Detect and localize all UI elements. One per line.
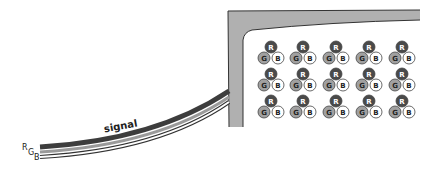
subpixel-label: R: [268, 44, 274, 52]
pixel-triad: RGB: [323, 68, 349, 91]
pixel-triad: RGB: [323, 95, 349, 118]
subpixel-label: B: [275, 82, 280, 90]
subpixel-label: G: [326, 109, 332, 117]
subpixel-label: B: [307, 82, 312, 90]
subpixel-label: R: [399, 44, 405, 52]
subpixel-label: G: [293, 109, 299, 117]
subpixel-label: R: [300, 98, 306, 106]
pixel-grid: RGBRGBRGBRGBRGBRGBRGBRGBRGBRGBRGBRGBRGBR…: [258, 41, 415, 118]
pixel-triad: RGB: [258, 68, 284, 91]
subpixel-label: B: [340, 109, 345, 117]
subpixel-label: R: [300, 71, 306, 79]
subpixel-label: R: [399, 71, 405, 79]
subpixel-label: G: [261, 109, 267, 117]
pixel-triad: RGB: [356, 41, 382, 64]
subpixel-label: G: [326, 55, 332, 63]
subpixel-label: R: [300, 44, 306, 52]
channel-label-b: B: [34, 153, 40, 162]
subpixel-label: G: [261, 55, 267, 63]
subpixel-label: R: [333, 71, 339, 79]
rgb-display-diagram: signal R G B RGBRGBRGBRGBRGBRGBRGBRGBRGB…: [0, 0, 440, 170]
subpixel-label: G: [359, 109, 365, 117]
subpixel-label: R: [268, 71, 274, 79]
subpixel-label: R: [333, 98, 339, 106]
subpixel-label: B: [340, 82, 345, 90]
subpixel-label: B: [275, 109, 280, 117]
pixel-triad: RGB: [258, 41, 284, 64]
subpixel-label: B: [373, 82, 378, 90]
subpixel-label: R: [366, 71, 372, 79]
subpixel-label: G: [359, 55, 365, 63]
subpixel-label: G: [392, 55, 398, 63]
pixel-triad: RGB: [290, 95, 316, 118]
subpixel-label: R: [333, 44, 339, 52]
subpixel-label: B: [406, 82, 411, 90]
subpixel-label: R: [268, 98, 274, 106]
subpixel-label: B: [406, 109, 411, 117]
subpixel-label: B: [307, 109, 312, 117]
subpixel-label: B: [373, 55, 378, 63]
subpixel-label: G: [392, 109, 398, 117]
subpixel-label: G: [261, 82, 267, 90]
subpixel-label: R: [366, 44, 372, 52]
subpixel-label: B: [307, 55, 312, 63]
subpixel-label: B: [340, 55, 345, 63]
subpixel-label: G: [326, 82, 332, 90]
subpixel-label: G: [293, 82, 299, 90]
subpixel-label: B: [275, 55, 280, 63]
subpixel-label: R: [399, 98, 405, 106]
subpixel-label: B: [406, 55, 411, 63]
pixel-triad: RGB: [323, 41, 349, 64]
subpixel-label: R: [366, 98, 372, 106]
subpixel-label: G: [293, 55, 299, 63]
pixel-triad: RGB: [290, 41, 316, 64]
pixel-triad: RGB: [258, 95, 284, 118]
pixel-triad: RGB: [290, 68, 316, 91]
subpixel-label: G: [392, 82, 398, 90]
pixel-triad: RGB: [389, 41, 415, 64]
subpixel-label: G: [359, 82, 365, 90]
pixel-triad: RGB: [389, 95, 415, 118]
pixel-triad: RGB: [356, 68, 382, 91]
pixel-triad: RGB: [389, 68, 415, 91]
pixel-triad: RGB: [356, 95, 382, 118]
subpixel-label: B: [373, 109, 378, 117]
